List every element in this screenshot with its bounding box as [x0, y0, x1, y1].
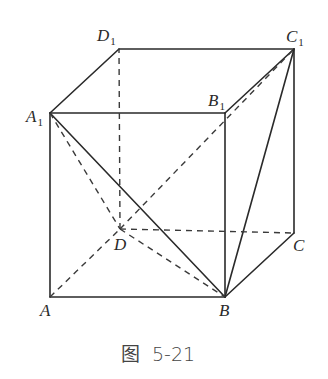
hidden-edge-D-D1 [119, 49, 120, 229]
edge-B1-C1 [225, 49, 294, 113]
label-B1: B1 [208, 91, 225, 112]
vertex-labels: D1 C1 A1 B1 D C A B [25, 26, 305, 320]
hidden-diagonal-D-C1 [120, 49, 294, 229]
hidden-edge-D-C [120, 229, 294, 233]
hidden-diagonal-D-B [120, 229, 225, 297]
cube-diagram: D1 C1 A1 B1 D C A B 图 5-21 [0, 0, 328, 379]
label-D1: D1 [96, 26, 116, 47]
edge-D1-A1 [50, 49, 119, 113]
dashed-edges [50, 49, 294, 297]
hidden-edge-A-D [50, 229, 120, 297]
hidden-diagonal-A1-D [50, 113, 120, 229]
label-D: D [113, 235, 127, 254]
label-A1: A1 [25, 107, 43, 128]
diagonal-B-C1 [225, 49, 294, 297]
label-C1: C1 [286, 27, 304, 48]
caption-number: 5-21 [152, 343, 195, 365]
diagonal-A1-B [50, 113, 225, 297]
label-A: A [39, 301, 51, 320]
label-C: C [293, 236, 305, 255]
figure-caption: 图 5-21 [121, 343, 195, 365]
caption-prefix: 图 [121, 343, 140, 365]
label-B: B [219, 301, 230, 320]
edge-B-C [225, 233, 294, 297]
